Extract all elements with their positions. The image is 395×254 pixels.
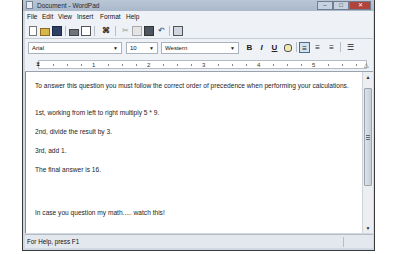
close-button[interactable]: ✕ <box>349 1 371 10</box>
script-select[interactable]: Western ▼ <box>161 42 239 54</box>
toolbar-separator <box>65 26 66 36</box>
scroll-down-button[interactable]: ▼ <box>363 223 373 233</box>
status-bar: For Help, press F1 <box>25 234 373 248</box>
ruler-tick <box>108 64 109 66</box>
copy-icon[interactable] <box>132 26 142 36</box>
scroll-thumb[interactable] <box>364 88 372 186</box>
paragraph: 1st, working from left to right multiply… <box>35 108 355 117</box>
toolbar-separator <box>340 42 341 52</box>
window-title: Document - WordPad <box>37 0 99 11</box>
menu-edit[interactable]: Edit <box>42 11 53 23</box>
italic-button[interactable]: I <box>256 42 267 53</box>
title-bar[interactable]: Document - WordPad – □ ✕ <box>23 0 374 11</box>
ruler-tick <box>136 64 137 66</box>
status-separator <box>343 237 344 247</box>
paragraph: 3rd, add 1. <box>35 146 355 155</box>
ruler-tick <box>81 64 82 66</box>
ruler-number: 4 <box>257 61 260 69</box>
format-bar: Arial ▼ 10 ▼ Western ▼ B I U ≡ ≡ ≡ ☰ <box>25 39 373 57</box>
ruler-number: 3 <box>202 61 205 69</box>
font-size-value: 10 <box>130 45 137 51</box>
right-indent-marker[interactable]: △ <box>364 61 369 69</box>
ruler-tick <box>342 64 343 66</box>
insert-datetime-icon[interactable] <box>173 26 183 36</box>
ruler-tick <box>122 64 123 66</box>
ruler-number: 2 <box>147 61 150 69</box>
document-area[interactable]: To answer this question you must follow … <box>25 72 362 233</box>
minimize-button[interactable]: – <box>317 1 333 10</box>
new-icon[interactable] <box>29 26 37 36</box>
bold-button[interactable]: B <box>244 42 255 53</box>
ruler-tick <box>163 64 164 66</box>
color-icon <box>284 44 292 52</box>
paragraph: The final answer is 16. <box>35 165 355 174</box>
align-left-button[interactable]: ≡ <box>299 42 310 53</box>
script-value: Western <box>165 45 187 51</box>
paragraph: In case you question my math..... watch … <box>35 208 355 217</box>
font-size-select[interactable]: 10 ▼ <box>126 42 158 54</box>
chevron-down-icon: ▼ <box>113 43 118 53</box>
undo-icon[interactable]: ↶ <box>156 26 166 36</box>
open-icon[interactable] <box>40 28 50 36</box>
color-button[interactable] <box>282 42 293 53</box>
font-name-value: Arial <box>32 45 44 51</box>
save-icon[interactable] <box>52 26 62 36</box>
menu-file[interactable]: File <box>27 11 37 23</box>
paragraph: To answer this question you must follow … <box>35 81 355 90</box>
ruler-number: 5 <box>312 61 315 69</box>
underline-button[interactable]: U <box>269 42 280 53</box>
toolbar-separator <box>94 26 95 36</box>
wordpad-app-icon <box>26 1 33 9</box>
find-icon[interactable]: ⌘ <box>101 26 111 36</box>
print-preview-icon[interactable] <box>81 26 91 36</box>
menu-view[interactable]: View <box>58 11 72 23</box>
ruler-tick <box>53 64 54 66</box>
menu-bar: File Edit View Insert Format Help <box>25 11 373 23</box>
paste-icon[interactable] <box>144 26 154 36</box>
ruler-number: 1 <box>92 61 95 69</box>
ruler-tick <box>246 64 247 66</box>
font-name-select[interactable]: Arial ▼ <box>28 42 122 54</box>
ruler-tick <box>273 64 274 66</box>
toolbar-separator <box>296 42 297 52</box>
ruler-tick <box>232 64 233 66</box>
align-right-button[interactable]: ≡ <box>326 42 337 53</box>
toolbar-separator <box>115 26 116 36</box>
wordpad-window: Document - WordPad – □ ✕ File Edit View … <box>22 0 375 251</box>
standard-toolbar: ⌘ ✂ ↶ <box>25 23 373 39</box>
ruler-tick <box>177 64 178 66</box>
ruler-tick <box>218 64 219 66</box>
ruler-bar: ⧗ 1 2 3 4 5 △ <box>38 60 367 69</box>
ruler-tick <box>301 64 302 66</box>
ruler-tick <box>287 64 288 66</box>
bullets-button[interactable]: ☰ <box>345 42 356 53</box>
cut-icon[interactable]: ✂ <box>120 26 130 36</box>
align-center-button[interactable]: ≡ <box>312 42 323 53</box>
menu-format[interactable]: Format <box>100 11 121 23</box>
ruler[interactable]: ⧗ 1 2 3 4 5 △ <box>25 57 373 72</box>
paragraph: 2nd, divide the result by 3. <box>35 127 355 136</box>
menu-insert[interactable]: Insert <box>77 11 93 23</box>
vertical-scrollbar[interactable]: ▲ ▼ <box>362 72 373 233</box>
ruler-tick <box>191 64 192 66</box>
left-indent-marker[interactable]: ⧗ <box>36 60 40 68</box>
ruler-tick <box>328 64 329 66</box>
maximize-button[interactable]: □ <box>333 1 349 10</box>
toolbar-separator <box>169 26 170 36</box>
chevron-down-icon: ▼ <box>149 43 154 53</box>
chevron-down-icon: ▼ <box>230 43 235 53</box>
ruler-tick <box>356 64 357 66</box>
menu-help[interactable]: Help <box>126 11 139 23</box>
scroll-up-button[interactable]: ▲ <box>363 72 373 82</box>
print-icon[interactable] <box>69 29 79 36</box>
status-text: For Help, press F1 <box>27 235 79 248</box>
ruler-tick <box>67 64 68 66</box>
grip-icon <box>366 135 370 136</box>
